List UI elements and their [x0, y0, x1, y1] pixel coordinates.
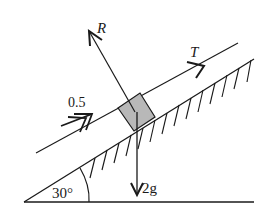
reaction-arrow-shaft — [89, 31, 135, 112]
acceleration-label: 0.5 — [68, 95, 86, 110]
incline-diagram: 30° R 2g T 0.5 — [0, 0, 277, 224]
acceleration-arrow-icon — [61, 114, 92, 132]
angle-arc — [80, 168, 89, 202]
weight-label: 2g — [142, 180, 158, 196]
incline-hatching — [90, 60, 251, 178]
angle-label: 30° — [52, 185, 73, 201]
incline-surface — [24, 59, 254, 202]
tension-label: T — [190, 44, 200, 60]
reaction-label: R — [96, 20, 106, 36]
